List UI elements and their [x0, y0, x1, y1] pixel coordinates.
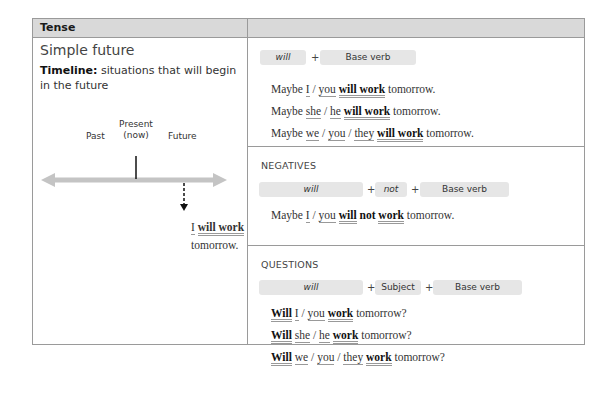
- formula-will: will: [260, 50, 306, 65]
- formula-base-verb: Base verb: [320, 50, 416, 65]
- neg-formula-not: not: [375, 182, 407, 197]
- timeline-label: Timeline:: [40, 64, 97, 77]
- timeline-arrow-icon: [33, 149, 247, 219]
- label-present-2: (now): [117, 130, 155, 141]
- table-header: Tense: [33, 19, 584, 38]
- label-future: Future: [168, 131, 197, 142]
- grammar-table: Tense Simple future Timeline: situations…: [32, 18, 585, 345]
- tense-title: Simple future: [40, 42, 134, 58]
- affirmative-example: Maybe we / you / they will work tomorrow…: [271, 127, 474, 139]
- affirmative-example: Maybe I / you will work tomorrow.: [271, 83, 435, 95]
- column-divider: [247, 19, 248, 344]
- question-example: Will I / you work tomorrow?: [271, 307, 407, 319]
- label-past: Past: [86, 131, 105, 142]
- example-subject: I: [191, 221, 195, 235]
- questions-heading: QUESTIONS: [261, 259, 318, 270]
- timeline-example: I will work: [191, 221, 244, 233]
- q-formula-base-verb: Base verb: [433, 280, 522, 295]
- timeline-example-end: tomorrow.: [191, 239, 238, 251]
- question-example: Will we / you / they work tomorrow?: [271, 351, 445, 363]
- timeline-description: Timeline: situations that will begin in …: [40, 63, 240, 93]
- neg-formula-base-verb: Base verb: [420, 182, 509, 197]
- question-example: Will she / he work tomorrow?: [271, 329, 412, 341]
- q-formula-will: will: [259, 280, 363, 295]
- neg-formula-plus: +: [411, 182, 419, 197]
- label-present-1: Present: [117, 119, 155, 130]
- neg-formula-will: will: [259, 182, 363, 197]
- formula-plus: +: [311, 50, 319, 65]
- example-verb: will work: [198, 221, 244, 236]
- label-present: Present (now): [117, 119, 155, 141]
- negative-example: Maybe I / you will not work tomorrow.: [271, 209, 454, 221]
- section-divider-negatives: [247, 146, 584, 147]
- negatives-heading: NEGATIVES: [261, 160, 316, 171]
- header-tense: Tense: [40, 21, 75, 34]
- q-formula-subject: Subject: [375, 280, 421, 295]
- affirmative-example: Maybe she / he will work tomorrow.: [271, 105, 441, 117]
- section-divider-questions: [247, 245, 584, 246]
